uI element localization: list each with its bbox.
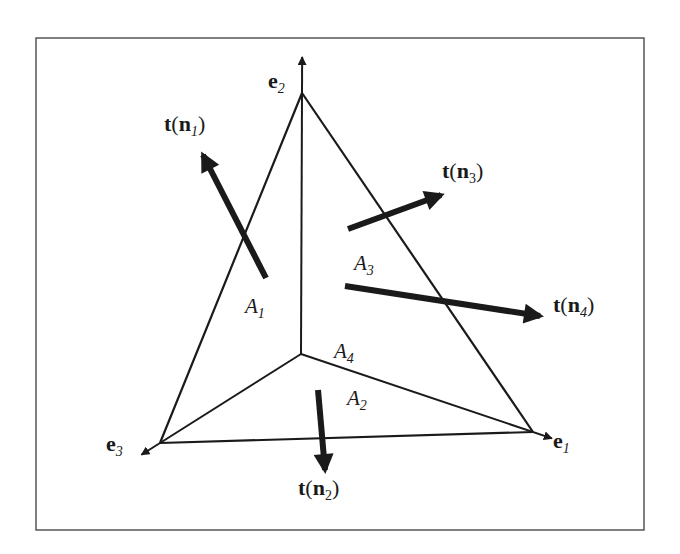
- edge-e3-e2: [160, 93, 302, 443]
- traction-arrow-t-n4: [345, 286, 540, 316]
- area-a2-base: A: [347, 386, 360, 410]
- open-paren: (: [171, 111, 178, 136]
- traction-label-t-n3: t(n3): [442, 160, 483, 182]
- n-subscript: 4: [580, 305, 587, 320]
- edge-e2-e1: [302, 93, 533, 432]
- axis-e2-subscript: 2: [278, 81, 285, 96]
- n-symbol: n: [568, 292, 580, 317]
- traction-arrow-t-n2: [318, 390, 325, 470]
- traction-label-t-n2: t(n2): [298, 477, 339, 499]
- area-a4-base: A: [334, 339, 347, 363]
- axis-e1-line: [301, 354, 552, 438]
- n-subscript: 1: [191, 124, 198, 139]
- area-a1-subscript: 1: [258, 306, 265, 321]
- n-symbol: n: [179, 111, 191, 136]
- n-symbol: n: [457, 158, 469, 183]
- open-paren: (: [560, 292, 567, 317]
- n-symbol: n: [313, 475, 325, 500]
- figure-frame: [36, 38, 644, 530]
- close-paren: ): [198, 111, 205, 136]
- edge-e1-e3: [160, 432, 533, 443]
- area-label-a3: A3: [354, 253, 374, 274]
- area-label-a2: A2: [347, 388, 367, 409]
- axis-e1-base: e: [553, 428, 563, 453]
- cauchy-tetrahedron-figure: e2 e1 e3 A1 A2 A3 A4 t(n1) t(n2) t(n3) t…: [0, 0, 680, 554]
- n-subscript: 3: [469, 171, 476, 186]
- open-paren: (: [449, 158, 456, 183]
- close-paren: ): [476, 158, 483, 183]
- axis-e1-subscript: 1: [563, 441, 570, 456]
- area-a2-subscript: 2: [360, 398, 367, 413]
- open-paren: (: [305, 475, 312, 500]
- n-subscript: 2: [325, 488, 332, 503]
- close-paren: ): [332, 475, 339, 500]
- traction-label-t-n1: t(n1): [164, 113, 205, 135]
- traction-arrow-t-n3: [348, 195, 441, 229]
- axis-e3-subscript: 3: [116, 444, 123, 459]
- traction-label-t-n4: t(n4): [553, 294, 594, 316]
- axis-e2-line: [301, 57, 302, 354]
- area-a1-base: A: [245, 294, 258, 318]
- diagram-canvas: [0, 0, 680, 554]
- area-a4-subscript: 4: [347, 351, 354, 366]
- area-label-a4: A4: [334, 341, 354, 362]
- area-a3-base: A: [354, 251, 367, 275]
- axis-label-e2: e2: [268, 70, 285, 92]
- axis-label-e1: e1: [553, 430, 570, 452]
- axis-label-e3: e3: [106, 433, 123, 455]
- area-a3-subscript: 3: [367, 263, 374, 278]
- axis-e2-base: e: [268, 68, 278, 93]
- axis-e3-base: e: [106, 431, 116, 456]
- area-label-a1: A1: [245, 296, 265, 317]
- close-paren: ): [587, 292, 594, 317]
